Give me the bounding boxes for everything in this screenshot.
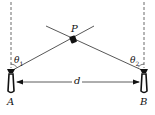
line-a-to-p (11, 26, 94, 71)
angle-2-label: θ2 (130, 56, 139, 67)
angle-2-subscript: 2 (135, 60, 139, 67)
triangulation-diagram: P θ1 θ2 d A B (0, 0, 155, 115)
antenna-b-label: B (140, 97, 147, 107)
arrow-right-icon (133, 80, 140, 85)
point-p-label: P (71, 24, 78, 34)
antenna-b-icon (140, 69, 148, 93)
antenna-a-label: A (7, 97, 14, 107)
distance-label: d (74, 76, 80, 86)
angle-1-subscript: 1 (19, 60, 23, 67)
antenna-a-icon (7, 69, 15, 93)
point-p-marker (69, 35, 77, 44)
arrow-left-icon (16, 80, 23, 85)
angle-1-label: θ1 (14, 56, 23, 67)
